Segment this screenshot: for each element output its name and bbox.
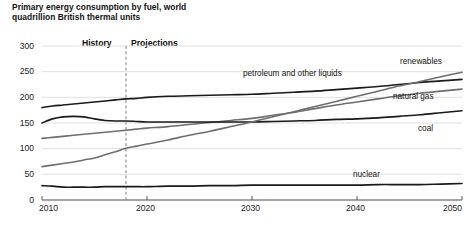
series-label-renewables: renewables xyxy=(400,57,442,66)
series-label-coal: coal xyxy=(418,124,433,133)
series-label-nuclear: nuclear xyxy=(353,170,380,179)
series-line-renewables xyxy=(42,72,462,166)
y-tick-label: 250 xyxy=(8,66,34,76)
series-label-petroleum-and-other-liquids: petroleum and other liquids xyxy=(243,69,342,78)
plot-area xyxy=(0,0,469,229)
y-tick-label: 300 xyxy=(8,41,34,51)
x-tick-label: 2040 xyxy=(346,203,365,213)
x-tick-label: 2020 xyxy=(136,203,155,213)
series-label-natural-gas: natural gas xyxy=(393,92,434,101)
series-line-nuclear xyxy=(42,184,462,188)
y-tick-label: 200 xyxy=(8,92,34,102)
chart-container: Primary energy consumption by fuel, worl… xyxy=(0,0,469,229)
y-tick-label: 150 xyxy=(8,118,34,128)
x-tick-label: 2010 xyxy=(39,203,58,213)
y-tick-label: 100 xyxy=(8,143,34,153)
x-tick-label: 2050 xyxy=(443,203,462,213)
x-tick-label: 2030 xyxy=(241,203,260,213)
y-tick-label: 0 xyxy=(8,195,34,205)
y-tick-label: 50 xyxy=(8,169,34,179)
